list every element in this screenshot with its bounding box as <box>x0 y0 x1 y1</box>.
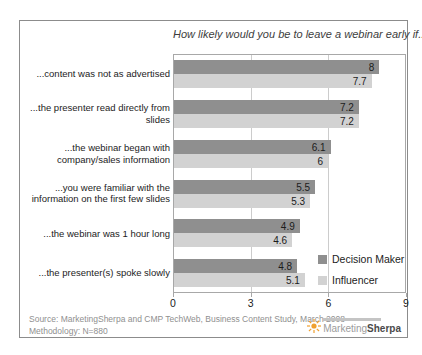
bar-influencer: 7.2 <box>174 114 359 128</box>
category-label: ...the presenter read directly from slid… <box>22 94 170 134</box>
bar-value-label: 4.6 <box>273 235 287 246</box>
bar-decision-maker: 6.1 <box>174 140 331 154</box>
bar-group: 5.55.3 <box>174 175 405 215</box>
legend-item-influencer: Influencer <box>318 274 404 286</box>
legend-item-decision-maker: Decision Maker <box>318 253 404 265</box>
bar-group: 7.27.2 <box>174 95 405 135</box>
chart-container: How likely would you be to leave a webin… <box>19 20 408 338</box>
source-text: Source: MarketingSherpa and CMP TechWeb,… <box>29 314 345 326</box>
legend-label: Decision Maker <box>332 253 404 265</box>
category-label: ...content was not as advertised <box>22 54 170 94</box>
methodology-text: Methodology: N=880 <box>29 326 345 338</box>
bar-decision-maker: 4.8 <box>174 259 297 273</box>
bar-value-label: 6.1 <box>312 141 326 152</box>
bar-decision-maker: 5.5 <box>174 180 315 194</box>
category-label: ...the webinar was 1 hour long <box>22 213 170 253</box>
logo-text-marketing: Marketing <box>323 323 367 334</box>
category-label: ...you were familiar with the informatio… <box>22 174 170 214</box>
sun-icon <box>307 319 321 333</box>
bar-influencer: 7.7 <box>174 74 372 88</box>
legend-swatch-influencer <box>318 276 327 285</box>
bar-value-label: 5.3 <box>291 195 305 206</box>
bar-value-label: 8 <box>369 62 375 73</box>
x-tick-label: 6 <box>325 297 331 309</box>
chart-title: How likely would you be to leave a webin… <box>173 28 406 40</box>
logo-tagline <box>323 318 381 321</box>
bar-value-label: 7.2 <box>340 115 354 126</box>
x-tick-label: 3 <box>248 297 254 309</box>
bar-group: 6.16 <box>174 135 405 175</box>
bar-influencer: 5.1 <box>174 273 305 287</box>
logo-text-sherpa: Sherpa <box>367 323 401 334</box>
bar-value-label: 6 <box>317 155 323 166</box>
bar-value-label: 7.2 <box>340 101 354 112</box>
bar-influencer: 4.6 <box>174 233 292 247</box>
legend: Decision MakerInfluencer <box>318 253 404 295</box>
legend-label: Influencer <box>332 274 378 286</box>
bar-decision-maker: 7.2 <box>174 100 359 114</box>
bar-value-label: 7.7 <box>353 76 367 87</box>
x-axis: 0369 <box>173 297 406 311</box>
bar-value-label: 5.1 <box>286 275 300 286</box>
x-tick-label: 9 <box>403 297 409 309</box>
bar-decision-maker: 4.9 <box>174 219 300 233</box>
bar-influencer: 5.3 <box>174 194 310 208</box>
bar-group: 87.7 <box>174 55 405 95</box>
plot-area: 87.77.27.26.165.55.34.94.64.85.1 Decisio… <box>173 54 406 293</box>
bar-influencer: 6 <box>174 154 328 168</box>
category-label: ...the webinar began with company/sales … <box>22 134 170 174</box>
category-axis: ...content was not as advertised...the p… <box>22 54 170 293</box>
bar-value-label: 5.5 <box>296 181 310 192</box>
bar-value-label: 4.9 <box>281 221 295 232</box>
category-label: ...the presenter(s) spoke slowly <box>22 253 170 293</box>
logo-text: MarketingSherpa <box>323 323 401 334</box>
legend-swatch-decision-maker <box>318 255 327 264</box>
bar-value-label: 4.8 <box>278 261 292 272</box>
x-tick-label: 0 <box>170 297 176 309</box>
bar-decision-maker: 8 <box>174 60 379 74</box>
footer: Source: MarketingSherpa and CMP TechWeb,… <box>29 314 345 337</box>
marketingsherpa-logo: MarketingSherpa <box>307 318 401 334</box>
bar-group: 4.94.6 <box>174 214 405 254</box>
